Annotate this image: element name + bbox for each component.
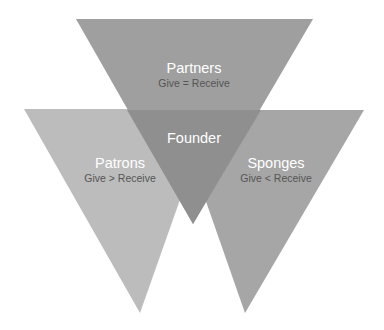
- partners-title: Partners: [124, 60, 264, 77]
- patrons-subtitle: Give > Receive: [50, 172, 190, 185]
- founder-label: Founder: [124, 130, 264, 147]
- sponges-title: Sponges: [206, 155, 346, 172]
- sponges-label: Sponges Give < Receive: [206, 155, 346, 185]
- founder-title: Founder: [124, 130, 264, 147]
- sponges-subtitle: Give < Receive: [206, 172, 346, 185]
- partners-label: Partners Give = Receive: [124, 60, 264, 90]
- partners-subtitle: Give = Receive: [124, 77, 264, 90]
- patrons-label: Patrons Give > Receive: [50, 155, 190, 185]
- patrons-title: Patrons: [50, 155, 190, 172]
